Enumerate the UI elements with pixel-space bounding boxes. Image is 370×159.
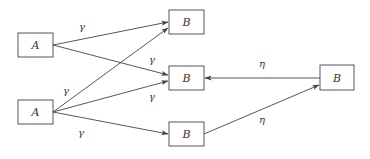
node-a2: A	[18, 100, 53, 124]
node-b4: B	[320, 65, 354, 90]
edge-label: η	[259, 58, 265, 69]
node-label: B	[181, 72, 190, 85]
node-label: B	[181, 16, 190, 29]
node-b2: B	[169, 66, 204, 90]
node-b1: B	[169, 10, 204, 34]
node-b3: B	[169, 122, 204, 146]
edge-label: γ	[149, 91, 155, 102]
node-label: B	[181, 128, 190, 141]
node-label: B	[332, 72, 341, 85]
node-label: A	[31, 39, 40, 52]
arrow-b3-to-b4	[204, 85, 319, 134]
edge-label: η	[259, 114, 265, 125]
edge-label: γ	[149, 54, 155, 65]
edge-label: γ	[79, 21, 85, 32]
edge-label: γ	[78, 127, 84, 138]
node-label: A	[31, 106, 40, 119]
arrow-a1-to-b1	[53, 22, 168, 45]
arrow-a2-to-b3	[53, 112, 168, 134]
edge-label: γ	[63, 85, 69, 96]
commutative-diagram: AABBBB γγγγγηη	[0, 0, 370, 159]
node-a1: A	[18, 33, 53, 57]
